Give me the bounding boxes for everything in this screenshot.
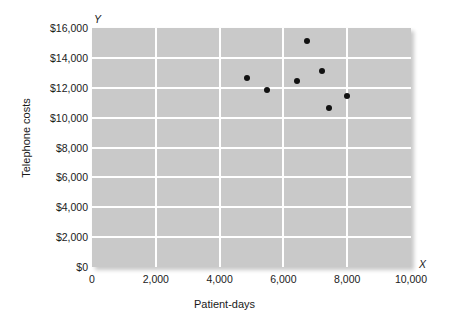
vertical-gridline [219,28,221,267]
data-point [344,93,350,99]
horizontal-gridline [92,147,411,149]
y-axis-tick-label: $2,000 [2,232,88,243]
y-axis-tick-label: $14,000 [2,53,88,64]
horizontal-gridline [92,57,411,59]
y-axis-tick-label: $4,000 [2,202,88,213]
horizontal-gridline [92,206,411,208]
y-axis-letter-label: Y [94,13,101,25]
data-point [244,75,250,81]
horizontal-gridline [92,117,411,119]
y-axis-tick-label: $12,000 [2,83,88,94]
y-axis-tick-label: $10,000 [2,112,88,123]
x-axis-tick-label: 8,000 [334,274,360,285]
x-axis-tick-label: 0 [89,274,95,285]
horizontal-gridline [92,176,411,178]
y-axis-tick-labels: $0$2,000$4,000$6,000$8,000$10,000$12,000… [0,0,88,328]
x-axis-tick-label: 2,000 [143,274,169,285]
y-axis-title: Telephone costs [20,78,32,198]
x-axis-title: Patient-days [0,298,449,310]
y-axis-tick-label: $16,000 [2,23,88,34]
data-point [264,87,270,93]
vertical-gridline [155,28,157,267]
x-axis-tick-label: 10,000 [395,274,427,285]
data-point [326,105,332,111]
data-point [304,38,310,44]
x-axis-tick-label: 4,000 [206,274,232,285]
plot-area [92,28,411,267]
data-point [319,68,325,74]
y-axis-tick-label: $8,000 [2,142,88,153]
horizontal-gridline [92,236,411,238]
data-point [294,78,300,84]
x-axis-letter-label: X [419,258,426,270]
scatter-plot-figure: $0$2,000$4,000$6,000$8,000$10,000$12,000… [0,0,449,328]
y-axis-tick-label: $6,000 [2,172,88,183]
horizontal-gridline [92,87,411,89]
x-axis-tick-label: 6,000 [270,274,296,285]
vertical-gridline [282,28,284,267]
y-axis-tick-label: $0 [2,262,88,273]
vertical-gridline [346,28,348,267]
